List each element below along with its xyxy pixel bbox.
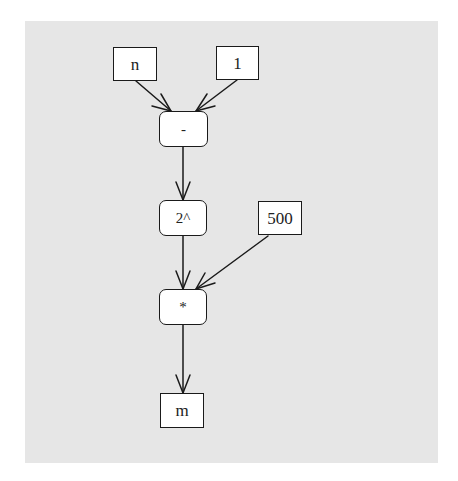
- node-constant-500: 500: [258, 201, 302, 235]
- node-pow2-label: 2^: [176, 211, 191, 226]
- node-m-label: m: [175, 402, 188, 419]
- node-times-label: *: [179, 300, 187, 315]
- node-n: n: [113, 47, 157, 81]
- node-n-label: n: [131, 56, 140, 73]
- node-times: *: [159, 289, 207, 325]
- node-m: m: [160, 393, 204, 428]
- node-constant-1-label: 1: [233, 55, 242, 72]
- node-minus-label: -: [181, 122, 186, 137]
- node-pow2: 2^: [159, 200, 207, 236]
- diagram-canvas: [25, 21, 438, 463]
- node-constant-500-label: 500: [267, 210, 293, 227]
- node-minus: -: [159, 111, 208, 147]
- node-constant-1: 1: [216, 46, 259, 80]
